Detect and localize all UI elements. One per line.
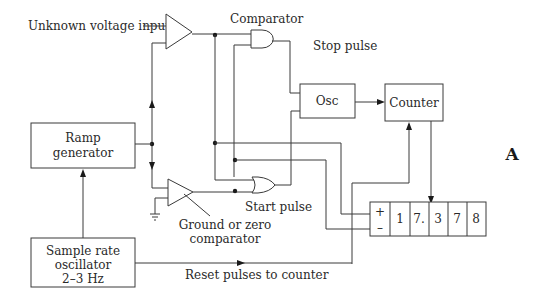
and-gate-symbol: [251, 30, 273, 48]
display-digit: 7: [453, 212, 461, 226]
ramp-label-line1: Ramp: [65, 131, 101, 145]
display-digit: 1: [396, 212, 404, 226]
arrow-up-icon: [406, 122, 412, 130]
reset-pulses-label: Reset pulses to counter: [185, 268, 329, 282]
sample-label-line2: oscillator: [55, 258, 112, 272]
display-digit: 7.: [413, 212, 424, 226]
sign-plus: +: [375, 205, 385, 219]
counter-label: Counter: [389, 96, 439, 110]
input-comparator-symbol: [166, 14, 192, 49]
ground-icon: [150, 214, 160, 220]
ground-comp-label-line1: Ground or zero: [179, 218, 272, 232]
osc-label: Osc: [316, 94, 339, 108]
ramp-label-line2: generator: [53, 146, 114, 160]
comparator-label: Comparator: [230, 12, 304, 26]
start-pulse-label: Start pulse: [245, 200, 312, 214]
arrow-up-icon: [80, 169, 86, 177]
digital-display: + – 1 7. 3 7 8: [370, 202, 486, 236]
arrow-right-icon: [377, 99, 385, 105]
ground-comparator-symbol: [168, 179, 193, 206]
sample-label-line3: 2–3 Hz: [62, 272, 104, 286]
display-digit: 3: [434, 212, 442, 226]
arrow-up-icon: [149, 100, 155, 108]
sign-minus: –: [377, 221, 383, 235]
ground-comp-pointer: [184, 194, 210, 216]
junction-dot: [233, 189, 237, 193]
display-digit: 8: [472, 212, 480, 226]
arrow-right-icon: [237, 260, 245, 266]
ground-comp-label-line2: comparator: [190, 232, 261, 246]
sample-label-line1: Sample rate: [46, 244, 120, 258]
stop-pulse-label: Stop pulse: [313, 39, 377, 53]
figure-label: A: [504, 144, 519, 164]
or-gate-symbol: [252, 177, 275, 193]
dvm-block-diagram: Unknown voltage input Comparator Stop pu…: [0, 0, 546, 305]
arrow-down-icon: [149, 162, 155, 170]
